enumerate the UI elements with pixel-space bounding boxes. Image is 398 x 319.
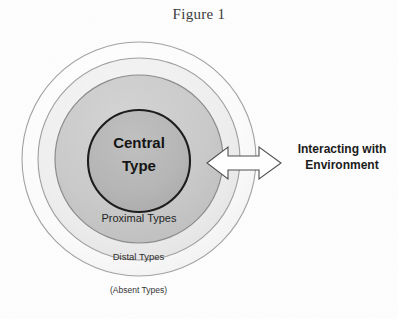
central-type-line2: Type (88, 154, 190, 177)
distal-types-label: Distal Types (66, 251, 211, 262)
environment-label-line2: Environment (288, 157, 396, 173)
absent-types-label: (Absent Types) (66, 285, 211, 295)
environment-label-line1: Interacting with (288, 141, 396, 157)
central-type-label: Central Type (88, 131, 190, 178)
central-type-line1: Central (88, 131, 190, 154)
figure-container: Figure 1 (0, 0, 398, 319)
proximal-types-label: Proximal Types (59, 212, 219, 224)
environment-label: Interacting with Environment (288, 141, 396, 173)
